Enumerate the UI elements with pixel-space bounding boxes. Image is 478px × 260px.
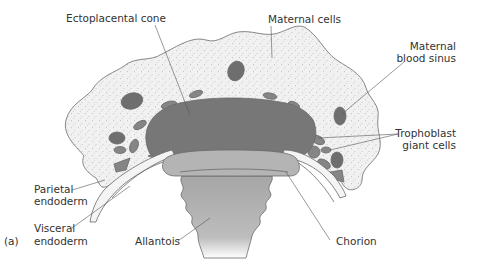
ectoplacental-cone <box>146 98 316 158</box>
panel-label: (a) <box>4 235 19 247</box>
label-maternal-cells: Maternal cells <box>268 13 341 25</box>
allantois <box>181 176 272 258</box>
giant-cell <box>321 147 331 153</box>
label-maternal-blood-sinus-2: blood sinus <box>396 52 456 64</box>
label-maternal-blood-sinus-1: Maternal <box>410 40 456 52</box>
label-parietal-endoderm-1: Parietal <box>34 183 73 195</box>
giant-cell <box>114 147 126 154</box>
label-allantois: Allantois <box>135 235 180 247</box>
label-ectoplacental-cone: Ectoplacental cone <box>66 12 166 24</box>
leader-visceral-endoderm <box>72 186 130 228</box>
label-chorion: Chorion <box>336 235 377 247</box>
blood-sinus <box>331 152 343 168</box>
label-visceral-endoderm-2: endoderm <box>34 235 88 247</box>
placenta-diagram: Ectoplacental cone Maternal cells Matern… <box>0 0 478 260</box>
leader-chorion <box>286 172 330 240</box>
chorion <box>163 150 300 176</box>
label-parietal-endoderm-2: endoderm <box>34 195 88 207</box>
blood-sinus <box>109 132 125 144</box>
label-trophoblast-2: giant cells <box>402 139 456 151</box>
label-visceral-endoderm-1: Visceral <box>34 222 75 234</box>
blood-sinus <box>334 107 346 125</box>
label-trophoblast-1: Trophoblast <box>394 127 456 139</box>
